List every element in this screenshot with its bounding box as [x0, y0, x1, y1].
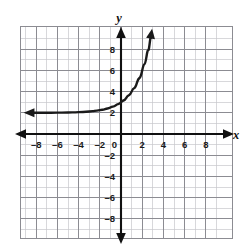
y-tick-label: 6 — [110, 65, 115, 76]
x-tick-label: 8 — [203, 139, 208, 150]
y-tick-label: –8 — [104, 213, 115, 224]
y-tick-label: –2 — [104, 150, 115, 161]
x-tick-label: 6 — [182, 139, 187, 150]
y-tick-label: –6 — [104, 192, 115, 203]
y-tick-label: 4 — [110, 86, 116, 97]
x-tick-label: –4 — [73, 139, 84, 150]
x-axis-label: x — [232, 128, 239, 142]
x-tick-label: –2 — [95, 139, 106, 150]
coordinate-plane: –8–6–4–202468 –8–6–4–22468 x y — [0, 0, 248, 249]
x-tick-label: –8 — [31, 139, 42, 150]
x-tick-label: 4 — [161, 139, 167, 150]
y-tick-label: –4 — [104, 171, 115, 182]
graph-figure: –8–6–4–202468 –8–6–4–22468 x y — [0, 0, 248, 249]
y-tick-label: 8 — [110, 44, 115, 55]
y-tick-label: 2 — [110, 107, 115, 118]
x-tick-label: 2 — [140, 139, 145, 150]
x-tick-label: 0 — [112, 139, 117, 150]
x-tick-label: –6 — [52, 139, 63, 150]
y-axis-label: y — [114, 11, 122, 25]
